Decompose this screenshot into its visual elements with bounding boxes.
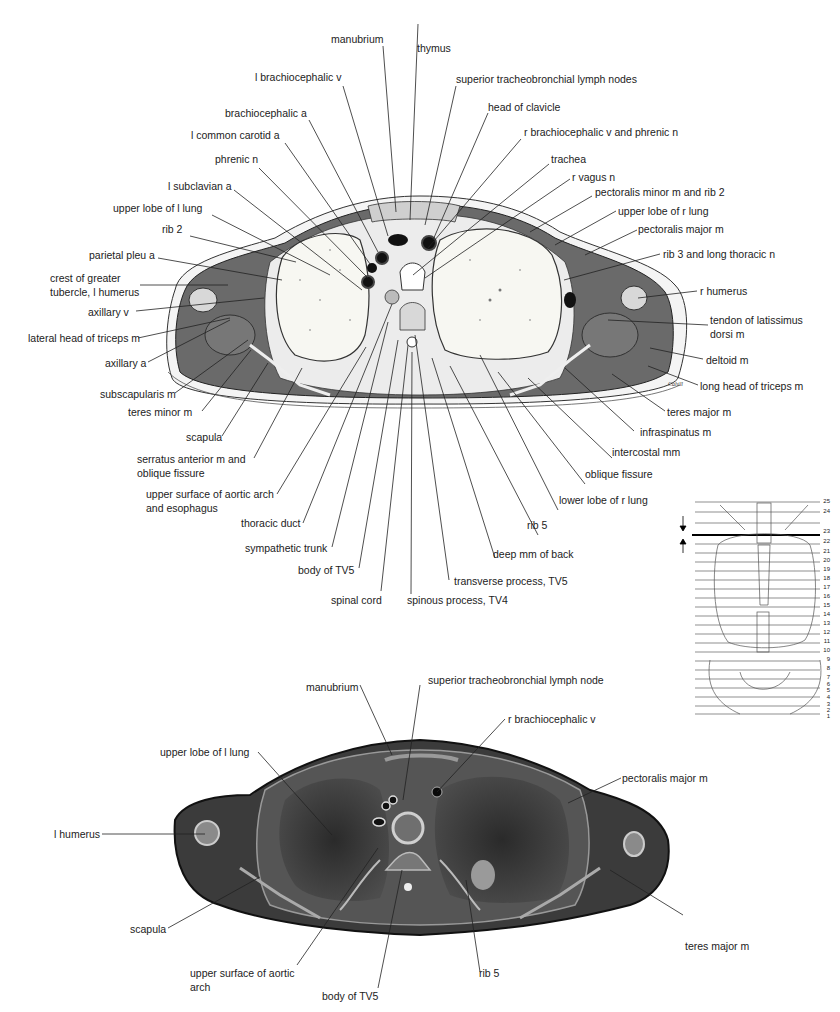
photo-label-upper-lobe-of-l-lung: upper lobe of l lung [160, 745, 249, 759]
photo-label-manubrium: manubrium [306, 680, 359, 694]
photo-label-scapula: scapula [130, 922, 166, 936]
label-r-brachiocephalic-v-and-phrenic-n: r brachiocephalic v and phrenic n [524, 125, 678, 139]
level-number: 20 [823, 557, 830, 564]
level-number: 8 [827, 665, 830, 672]
level-number: 22 [823, 538, 830, 545]
level-number-selected: 23 [823, 528, 830, 535]
label-upper-lobe-of-r-lung: upper lobe of r lung [618, 204, 708, 218]
label-aortic-arch-line2: and esophagus [146, 501, 218, 515]
label-axillary-a: axillary a [105, 356, 146, 370]
level-number: 19 [823, 566, 830, 573]
label-r-vagus-n: r vagus n [572, 170, 615, 184]
photo-label-superior-tracheobronchial-lymph-node: superior tracheobronchial lymph node [428, 673, 604, 687]
label-l-common-carotid-a: l common carotid a [191, 128, 280, 142]
level-number: 11 [824, 638, 830, 645]
level-number: 12 [823, 629, 830, 636]
label-l-brachiocephalic-v: l brachiocephalic v [255, 70, 341, 84]
level-number: 4 [827, 694, 830, 701]
photo-label-r-brachiocephalic-v: r brachiocephalic v [508, 712, 596, 726]
label-long-head-of-triceps-m: long head of triceps m [700, 379, 803, 393]
label-teres-minor-m: teres minor m [128, 405, 192, 419]
label-transverse-process-tv5: transverse process, TV5 [454, 574, 568, 588]
photo-label-aortic-arch-line2: arch [190, 980, 210, 994]
level-number: 18 [823, 575, 830, 582]
label-r-humerus: r humerus [700, 284, 747, 298]
label-infraspinatus-m: infraspinatus m [640, 425, 711, 439]
label-tendon-of-latissimus-line2: dorsi m [710, 327, 744, 341]
level-number: 13 [823, 620, 830, 627]
label-oblique-fissure: oblique fissure [585, 467, 653, 481]
label-rib-5: rib 5 [527, 518, 547, 532]
label-deltoid-m: deltoid m [706, 353, 749, 367]
photo-label-teres-major-m: teres major m [685, 939, 749, 953]
label-crest-of-greater-tubercle-line2: tubercle, l humerus [50, 285, 139, 299]
label-trachea: trachea [551, 152, 586, 166]
level-number: 7 [827, 674, 830, 681]
label-teres-major-m: teres major m [667, 405, 731, 419]
label-crest-of-greater-tubercle-line1: crest of greater [50, 271, 121, 285]
label-lateral-head-of-triceps-m: lateral head of triceps m [28, 331, 140, 345]
level-number: 10 [823, 647, 830, 654]
photo-label-rib-5: rib 5 [479, 966, 499, 980]
label-spinous-process-tv4: spinous process, TV4 [407, 593, 508, 607]
level-number: 14 [823, 611, 830, 618]
label-rib-3-and-long-thoracic-n: rib 3 and long thoracic n [663, 247, 775, 261]
label-serratus-anterior-line2: oblique fissure [137, 466, 205, 480]
level-number-column: 25 24 23 22 21 20 19 18 17 16 15 14 13 1… [680, 497, 830, 717]
label-intercostal-mm: intercostal mm [612, 445, 680, 459]
label-spinal-cord: spinal cord [331, 593, 382, 607]
level-number: 1 [827, 713, 830, 720]
photo-label-l-humerus: l humerus [54, 827, 100, 841]
label-thoracic-duct: thoracic duct [241, 516, 301, 530]
label-superior-tracheobronchial-lymph-nodes: superior tracheobronchial lymph nodes [456, 72, 637, 86]
label-parietal-pleura: parietal pleu a [89, 248, 155, 262]
level-number: 15 [823, 602, 830, 609]
label-aortic-arch-line1: upper surface of aortic arch [146, 487, 274, 501]
label-axillary-v: axillary v [88, 305, 129, 319]
label-body-of-tv5: body of TV5 [298, 563, 354, 577]
label-phrenic-n: phrenic n [215, 152, 258, 166]
level-number: 16 [823, 593, 830, 600]
label-pectoralis-minor-m-and-rib-2: pectoralis minor m and rib 2 [595, 185, 725, 199]
label-scapula: scapula [186, 430, 222, 444]
level-number: 5 [827, 687, 830, 694]
label-thymus: thymus [417, 41, 451, 55]
label-tendon-of-latissimus-line1: tendon of latissimus [710, 313, 803, 327]
photo-label-aortic-arch-line1: upper surface of aortic [190, 966, 294, 980]
level-number: 17 [823, 584, 830, 591]
label-lower-lobe-of-r-lung: lower lobe of r lung [559, 493, 648, 507]
level-number: 21 [823, 548, 830, 555]
label-pectoralis-major-m: pectoralis major m [638, 222, 724, 236]
label-head-of-clavicle: head of clavicle [488, 100, 560, 114]
level-number: 24 [823, 508, 830, 515]
label-serratus-anterior-line1: serratus anterior m and [137, 452, 246, 466]
label-sympathetic-trunk: sympathetic trunk [245, 541, 327, 555]
label-manubrium: manubrium [331, 32, 384, 46]
label-rib-2: rib 2 [162, 222, 182, 236]
label-subscapularis-m: subscapularis m [100, 387, 176, 401]
level-number: 9 [827, 656, 830, 663]
label-deep-mm-of-back: deep mm of back [493, 547, 574, 561]
label-brachiocephalic-a: brachiocephalic a [225, 106, 307, 120]
photo-label-body-of-tv5: body of TV5 [322, 989, 378, 1003]
label-upper-lobe-of-l-lung: upper lobe of l lung [113, 201, 202, 215]
level-number: 25 [823, 498, 830, 505]
photo-label-pectoralis-major-m: pectoralis major m [622, 771, 708, 785]
label-l-subclavian-a: l subclavian a [168, 179, 232, 193]
